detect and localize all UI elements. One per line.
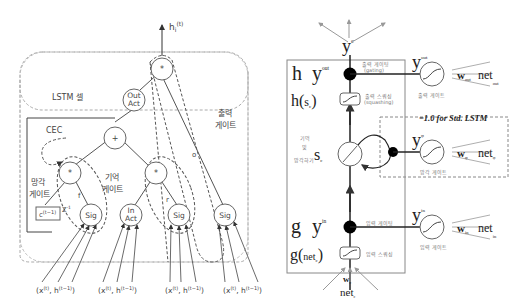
input-label-3: (x(t), h(t−1)) <box>165 285 204 295</box>
input-gate-label: 입력 게이트 <box>420 244 447 251</box>
svg-text:Sig: Sig <box>219 211 231 220</box>
g-net-label: g(netc) <box>290 246 323 264</box>
w-out-label: wout <box>457 69 471 82</box>
h-label: h <box>292 62 302 84</box>
input-squash-label: 입력 스쿼싱 <box>366 251 393 258</box>
input-gating-label: 입력 게이팅 <box>366 220 393 227</box>
svg-text:Act: Act <box>125 214 137 223</box>
right-lstm-diagram: yc h yout 출력 게이팅 (gating) h(sc) 출력 스쿼싱 (… <box>287 20 508 299</box>
svg-text:*: * <box>154 169 158 178</box>
forget-gate-label-2: 게이트 <box>29 189 50 199</box>
std-lstm-note: =1.0 for Std. LSTM <box>419 113 488 123</box>
edge-r: r <box>166 196 169 204</box>
left-lstm-diagram: hi(t) * Out Act + * * Sig <box>20 20 262 295</box>
svg-text:Act: Act <box>128 99 140 108</box>
delay-label: Z-1 <box>62 205 71 214</box>
lstm-diagrams: hi(t) * Out Act + * * Sig <box>0 0 520 301</box>
output-gate-label: 출력 게이트 <box>418 92 445 99</box>
net-out-label: netout <box>478 68 499 86</box>
svg-text:*: * <box>160 65 164 74</box>
output-gate-label-2: 게이트 <box>215 120 236 130</box>
memory-forget-label-1: 기억 <box>300 135 310 142</box>
output-squash-node <box>340 93 360 105</box>
net-in-label: netin <box>478 221 497 239</box>
svg-text:+: + <box>112 134 119 143</box>
net-c-label: netc <box>340 286 355 299</box>
forget-gate-node <box>420 140 444 164</box>
output-squash-label-2: (squashing) <box>364 99 393 106</box>
svg-text:Sig: Sig <box>85 211 97 220</box>
input-label-2: (x(t), h(t−1)) <box>98 285 137 295</box>
output-gating-label-2: (gating) <box>364 67 384 74</box>
cell-label: LSTM 셀 <box>52 92 83 102</box>
cec-label: CEC <box>46 126 63 135</box>
w-in-label: win <box>457 222 469 235</box>
output-label: hi(t) <box>169 20 183 33</box>
cec-recurrence <box>42 138 66 165</box>
input-gate-node <box>420 215 444 239</box>
g-label: g <box>291 215 301 238</box>
y-c-label: yc <box>342 36 354 56</box>
output-gate-node <box>420 62 444 86</box>
h-sc-label: h(sc) <box>291 92 317 110</box>
input-label-1: (x(t), h(t−1)) <box>36 285 75 295</box>
memory-forget-label-3: 망각하기 <box>294 157 314 164</box>
output-gate-label-1: 출력 <box>218 108 232 118</box>
cell-box <box>287 60 405 273</box>
input-squash-node <box>340 247 360 259</box>
edge-f: f <box>78 192 81 200</box>
memory-forget-label-2: 및 <box>302 144 307 151</box>
y-out-left-label: yout <box>312 62 330 85</box>
memory-gate-label-1: 기억 <box>105 172 119 182</box>
s-c-label: sc <box>314 146 323 163</box>
forget-gate-label: 망각 게이트 <box>420 169 447 176</box>
net-phi-label: netφ <box>478 146 496 160</box>
input-label-4: (x(t), h(t−1)) <box>223 285 262 295</box>
svg-text:*: * <box>68 169 72 178</box>
edge-o: o <box>192 151 196 159</box>
forget-gate-label-1: 망각 <box>31 177 46 187</box>
w-phi-label: wφ <box>457 147 468 160</box>
cec-recurrence-loop <box>358 135 390 168</box>
y-in-left-label: yin <box>312 215 327 238</box>
svg-text:Sig: Sig <box>173 211 185 220</box>
memory-gate-label-2: 게이트 <box>102 184 123 194</box>
